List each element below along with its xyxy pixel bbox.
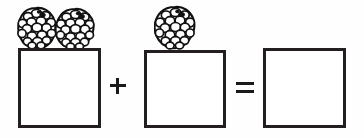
plus-sign-icon: + — [110, 78, 126, 94]
term-group-sum — [255, 0, 364, 138]
answer-box-value — [21, 51, 22, 52]
equals-top-stroke — [236, 82, 254, 85]
answer-box-value — [266, 51, 267, 52]
equals-sign-icon: = — [236, 82, 254, 94]
answer-box[interactable] — [144, 50, 226, 128]
term-group-first-addend — [0, 0, 108, 138]
plus-vertical-stroke — [116, 78, 119, 94]
berry-icon — [55, 7, 95, 51]
berry-icon — [154, 5, 196, 50]
answer-box[interactable] — [18, 48, 101, 128]
equation-canvas: + — [0, 0, 364, 138]
answer-box[interactable] — [263, 48, 346, 128]
term-group-second-addend — [134, 0, 234, 138]
answer-box-value — [147, 53, 148, 54]
plus-sign-label: + — [110, 78, 111, 79]
berry-icon — [17, 6, 57, 50]
equals-bottom-stroke — [236, 90, 254, 93]
